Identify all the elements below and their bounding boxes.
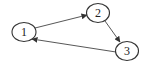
node-1-label: 1 bbox=[21, 25, 27, 39]
node-2: 2 bbox=[87, 4, 110, 23]
directed-graph: 1 2 3 bbox=[0, 0, 151, 65]
edge-2-to-3 bbox=[105, 21, 120, 42]
edge-3-to-1 bbox=[32, 39, 116, 52]
node-1: 1 bbox=[12, 23, 36, 42]
node-2-label: 2 bbox=[95, 6, 101, 20]
edge-1-to-2 bbox=[35, 15, 87, 28]
node-3: 3 bbox=[116, 42, 139, 61]
node-3-label: 3 bbox=[124, 44, 130, 58]
